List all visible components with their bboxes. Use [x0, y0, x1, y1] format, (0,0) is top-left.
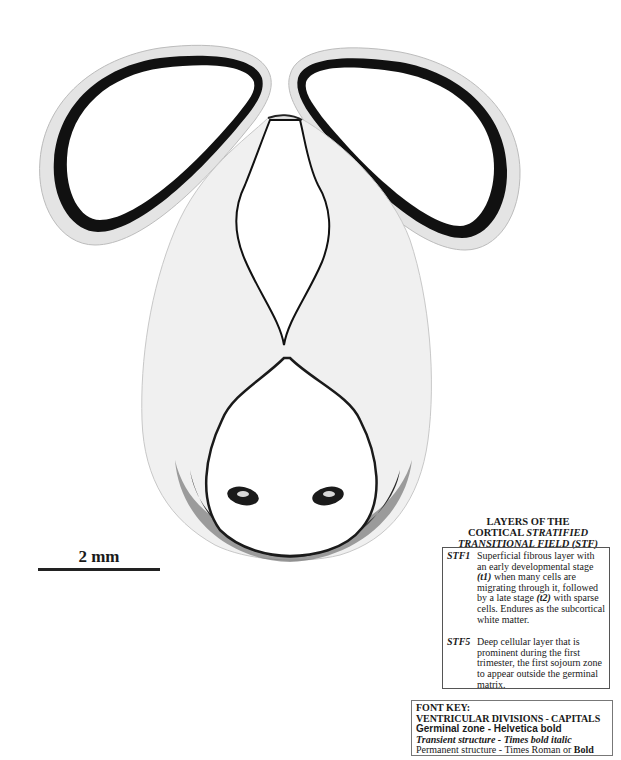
legend-title-line2-plain: CORTICAL [468, 527, 526, 538]
legend-title-line2: CORTICAL STRATIFIED [442, 527, 614, 538]
legend-item-stf1: STF1 Superficial fibrous layer with an e… [447, 551, 605, 625]
scale-bar-label: 2 mm [38, 548, 160, 566]
desc-term: (t1) [477, 571, 491, 582]
scale-bar: 2 mm [38, 548, 160, 571]
legend-description: Deep cellular layer that is prominent du… [477, 637, 605, 690]
legend-code: STF5 [447, 637, 477, 690]
legend-description: Superficial fibrous layer with an early … [477, 551, 605, 625]
desc-part: Superficial fibrous layer with an early … [477, 550, 594, 572]
font-key-permanent-bold: Bold [574, 744, 594, 755]
legend-code: STF1 [447, 551, 477, 625]
legend-title-line2-italic: STRATIFIED [526, 527, 588, 538]
legend-item-stf5: STF5 Deep cellular layer that is promine… [447, 637, 605, 690]
desc-term: (t2) [536, 592, 550, 603]
font-key-permanent: Permanent structure - Times Roman or Bol… [416, 745, 608, 756]
legend-title-line1: LAYERS OF THE [442, 516, 614, 527]
stf-legend-box: STF1 Superficial fibrous layer with an e… [442, 547, 610, 689]
legend-title: LAYERS OF THE CORTICAL STRATIFIED TRANSI… [442, 516, 614, 549]
font-key-permanent-plain: Permanent structure - Times Roman or [416, 744, 574, 755]
font-key-box: FONT KEY: VENTRICULAR DIVISIONS - CAPITA… [411, 700, 613, 756]
scale-bar-line [38, 568, 160, 571]
font-key-title: FONT KEY: [416, 703, 608, 714]
